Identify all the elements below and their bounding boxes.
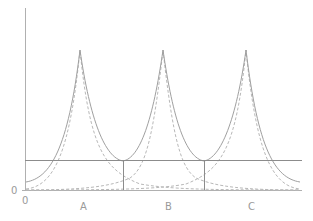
dashed-curve-b <box>26 50 300 190</box>
peak-label-c: C <box>248 201 255 212</box>
peak-label-a: A <box>80 201 87 212</box>
dashed-curve-c <box>26 50 300 190</box>
peaks-diagram: 0 0 A B C <box>0 0 313 221</box>
dashed-curve-a <box>26 50 300 190</box>
y-zero-label: 0 <box>11 185 17 196</box>
peak-label-b: B <box>165 201 172 212</box>
x-zero-label: 0 <box>22 195 28 206</box>
solid-envelope-curve <box>26 50 300 182</box>
